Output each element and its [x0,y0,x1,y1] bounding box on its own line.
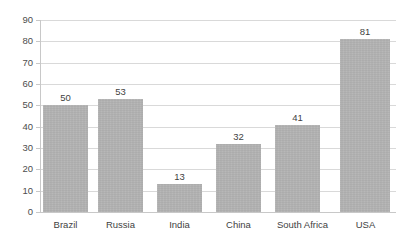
bar-russia [98,99,143,212]
category-label-brazil: Brazil [38,219,93,230]
category-label-russia: Russia [93,219,148,230]
category-label-india: India [152,219,207,230]
y-tick-label-20: 20 [3,164,33,174]
y-tick-mark-10 [36,191,40,192]
bar-south-africa [275,125,320,212]
y-axis-line [40,20,41,212]
y-tick-mark-80 [36,41,40,42]
y-tick-mark-30 [36,148,40,149]
y-tick-label-60: 60 [3,79,33,89]
bar-india [157,184,202,212]
bar-value-russia: 53 [98,86,143,97]
y-tick-mark-0 [36,212,40,213]
y-tick-mark-60 [36,84,40,85]
y-tick-label-80: 80 [3,36,33,46]
y-tick-mark-40 [36,127,40,128]
y-tick-label-30: 30 [3,143,33,153]
y-tick-label-50: 50 [3,100,33,110]
bar-chart: 90 80 70 60 50 40 30 20 10 0 50 53 13 32… [0,0,407,244]
y-tick-label-10: 10 [3,186,33,196]
bar-value-usa: 81 [340,26,390,37]
category-label-china: China [211,219,266,230]
y-tick-label-70: 70 [3,58,33,68]
bar-value-brazil: 50 [43,92,88,103]
bar-value-china: 32 [216,131,261,142]
y-tick-mark-90 [36,20,40,21]
bar-brazil [43,105,88,212]
y-tick-label-90: 90 [3,15,33,25]
bar-value-india: 13 [157,171,202,182]
category-label-south-africa: South Africa [265,219,340,230]
gridline-90 [40,20,396,21]
bar-china [216,144,261,212]
plot-area [40,20,396,212]
y-axis-tick-labels: 90 80 70 60 50 40 30 20 10 0 [0,0,33,244]
x-axis-line [40,212,396,213]
y-tick-label-40: 40 [3,122,33,132]
y-tick-mark-70 [36,63,40,64]
y-tick-mark-20 [36,169,40,170]
bar-value-south-africa: 41 [275,112,320,123]
bar-usa [340,39,390,212]
category-label-usa: USA [338,219,393,230]
y-tick-label-0: 0 [3,207,33,217]
y-tick-mark-50 [36,105,40,106]
